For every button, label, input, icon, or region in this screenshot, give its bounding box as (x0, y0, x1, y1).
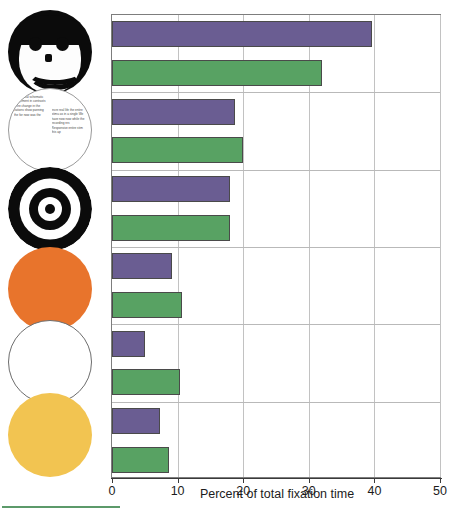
bar-white-disc-purple (112, 331, 145, 357)
gridline-40 (374, 15, 375, 477)
x-tick-0 (112, 478, 113, 483)
stimulus-column: of a of real schematic rangement in cont… (0, 0, 104, 480)
row-separator (112, 92, 440, 93)
bullseye-ring-5 (45, 204, 55, 214)
face-hair (19, 15, 81, 45)
gridline-50 (440, 15, 441, 477)
bar-white-disc-green (112, 369, 180, 395)
face-eye-right (56, 37, 69, 51)
plot-area (111, 14, 441, 478)
bar-schematic-face-green (112, 60, 322, 86)
bar-bullseye-target-purple (112, 176, 230, 202)
bar-orange-disc-purple (112, 253, 172, 279)
row-separator (112, 170, 440, 171)
bar-yellow-disc-green (112, 447, 169, 473)
stimulus-yellow-disc-icon (8, 393, 92, 477)
footer-rule (2, 506, 120, 508)
row-separator (112, 324, 440, 325)
stimulus-orange-disc-icon (8, 247, 92, 331)
x-axis: 01020304050 (111, 478, 442, 479)
stimulus-schematic-face-icon (8, 10, 92, 94)
x-tick-30 (309, 478, 310, 483)
bar-printed-text-green (112, 137, 243, 163)
row-separator (112, 402, 440, 403)
text-column-two: incre real life the entire stimu as in a… (52, 95, 87, 165)
bar-printed-text-purple (112, 99, 235, 125)
x-tick-10 (178, 478, 179, 483)
stimulus-bullseye-icon (8, 167, 92, 251)
bar-bullseye-target-green (112, 215, 230, 241)
x-axis-label: Percent of total fixation time (0, 487, 454, 501)
x-tick-50 (440, 478, 441, 483)
bar-schematic-face-purple (112, 21, 372, 47)
text-column-one: of a of real schematic rangement in cont… (14, 95, 49, 165)
fixation-time-figure: of a of real schematic rangement in cont… (0, 0, 454, 516)
stimulus-white-disc-icon (8, 320, 92, 404)
x-tick-40 (374, 478, 375, 483)
bar-orange-disc-green (112, 292, 182, 318)
row-separator (112, 247, 440, 248)
bar-yellow-disc-purple (112, 408, 160, 434)
face-eye-left (29, 37, 42, 51)
face-mouth (27, 54, 83, 90)
stimulus-printed-text-icon: of a of real schematic rangement in cont… (8, 88, 92, 172)
x-tick-20 (243, 478, 244, 483)
